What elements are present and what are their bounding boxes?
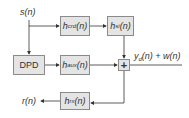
h-rx-block: hrx(n) — [60, 92, 90, 110]
h-aux-block: haux(n) — [60, 55, 90, 75]
h-si-arg: (n) — [120, 21, 131, 31]
input-signal-label: s(n) — [20, 8, 36, 17]
dpd-block: DPD — [13, 55, 45, 75]
output-rest: (n) + w(n) — [142, 51, 181, 61]
h-rx-arg: (n) — [75, 96, 86, 106]
block-diagram: s(n) hcrd(n) hsi(n) DPD haux(n) + yd(n) … — [0, 0, 189, 118]
feedback-label-arg: (n) — [25, 96, 36, 106]
sum-junction: + — [118, 59, 130, 71]
plus-icon: + — [121, 59, 127, 71]
output-signal-label: yd(n) + w(n) — [134, 52, 181, 62]
h-crd-block: hcrd(n) — [60, 16, 90, 36]
h-crd-sub: crd — [68, 23, 76, 29]
h-aux-arg: (n) — [77, 60, 88, 70]
dpd-label: DPD — [19, 60, 38, 70]
h-si-block: hsi(n) — [107, 16, 134, 36]
input-label-arg: (n) — [25, 7, 36, 17]
h-aux-sub: aux — [67, 62, 77, 68]
h-crd-arg: (n) — [76, 21, 87, 31]
feedback-signal-label: r(n) — [22, 97, 36, 106]
